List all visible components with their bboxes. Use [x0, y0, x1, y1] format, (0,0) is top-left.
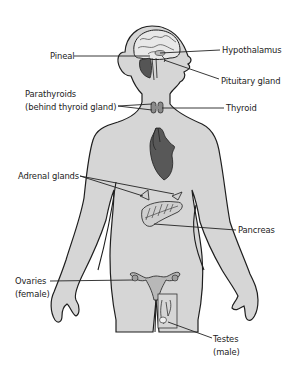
label-pituitary-gland: Pituitary gland	[221, 76, 281, 86]
label-adrenal-glands: Adrenal glands	[18, 171, 79, 181]
endocrine-system-diagram: Pineal Hypothalamus Pituitary gland Para…	[0, 0, 299, 373]
ovary-right	[172, 275, 178, 281]
label-ovaries: Ovaries	[15, 276, 46, 286]
label-thyroid: Thyroid	[226, 103, 257, 113]
testis	[160, 317, 167, 323]
label-testes: Testes	[213, 334, 238, 344]
label-pancreas: Pancreas	[238, 225, 275, 235]
body-illustration	[0, 0, 299, 373]
label-pineal: Pineal	[50, 51, 75, 61]
label-parathyroids-note: (behind thyroid gland)	[25, 102, 116, 112]
label-hypothalamus: Hypothalamus	[222, 45, 282, 55]
label-ovaries-note: (female)	[15, 289, 50, 299]
label-parathyroids: Parathyroids	[25, 89, 76, 99]
label-testes-note: (male)	[213, 347, 240, 357]
